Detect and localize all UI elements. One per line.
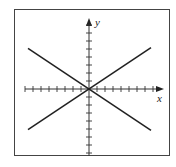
y-axis-label: y <box>94 16 100 28</box>
x-axis-label: x <box>156 92 162 104</box>
coordinate-plane: y x <box>0 0 176 167</box>
x-axis <box>25 86 164 92</box>
